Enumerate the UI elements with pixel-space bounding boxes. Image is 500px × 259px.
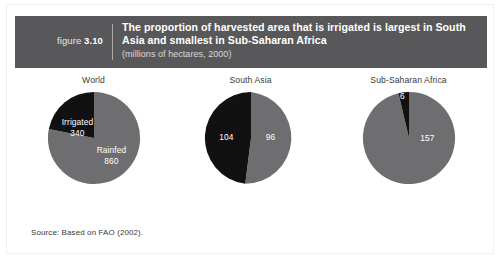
pie-label-rainfed: 96: [255, 132, 287, 143]
pie-label-rainfed: 157: [413, 133, 443, 144]
pie-label-irrigated-value: 104: [219, 132, 233, 142]
figure-header-banner: figure 3.10 The proportion of harvested …: [15, 16, 487, 68]
pie-label-rainfed-name: Rainfed: [97, 145, 127, 155]
page-subtitle: (millions of hectares, 2000): [122, 48, 479, 61]
chart-south-asia: South Asia 104 96: [172, 75, 329, 205]
pie-label-rainfed-value: 860: [104, 156, 118, 166]
chart-title-south-asia: South Asia: [172, 75, 329, 85]
pie-label-irrigated: 104: [211, 132, 243, 143]
pie-south-asia: 104 96: [203, 90, 299, 186]
figure-label-prefix: figure: [57, 35, 81, 46]
header-divider: [112, 24, 113, 60]
pie-label-irrigated: Irrigated 340: [50, 117, 106, 139]
page-title: The proportion of harvested area that is…: [122, 21, 479, 47]
pie-label-irrigated-name: Irrigated: [62, 117, 94, 127]
figure-number-label: figure 3.10: [29, 35, 103, 46]
pie-label-rainfed-value: 96: [266, 132, 276, 142]
pie-label-irrigated-value: 340: [70, 128, 84, 138]
source-note: Source: Based on FAO (2002).: [31, 228, 143, 237]
header-text-block: The proportion of harvested area that is…: [122, 21, 479, 61]
chart-title-world: World: [15, 75, 172, 85]
pie-label-irrigated: 6: [394, 91, 412, 102]
pie-label-rainfed-value: 157: [420, 133, 434, 143]
pie-world: Irrigated 340 Rainfed 860: [46, 90, 142, 186]
pie-sub-saharan-africa: 6 157: [361, 90, 457, 186]
charts-row: World Irrigated 340 Rainfed 860: [15, 75, 487, 205]
figure-container: figure 3.10 The proportion of harvested …: [6, 4, 494, 254]
chart-world: World Irrigated 340 Rainfed 860: [15, 75, 172, 205]
pie-label-rainfed: Rainfed 860: [84, 145, 140, 167]
pie-label-irrigated-value: 6: [400, 91, 405, 101]
chart-sub-saharan-africa: Sub-Saharan Africa 6 157: [330, 75, 487, 205]
chart-title-sub-saharan-africa: Sub-Saharan Africa: [330, 75, 487, 85]
figure-number-value: 3.10: [84, 35, 103, 46]
